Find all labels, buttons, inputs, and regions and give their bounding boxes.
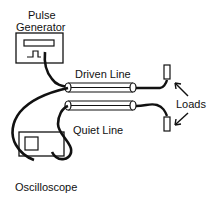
oscilloscope-label: Oscilloscope xyxy=(15,181,77,193)
load-top xyxy=(164,65,170,79)
pulse-generator-label-line1: Pulse xyxy=(28,9,56,21)
loads-label: Loads xyxy=(176,98,206,110)
driven-line xyxy=(65,83,136,92)
generator-cable xyxy=(45,52,68,87)
pulse-waveform-icon xyxy=(27,51,41,57)
scope-cable-1 xyxy=(13,88,68,160)
quiet-load-cable xyxy=(136,104,167,116)
load-bottom xyxy=(164,117,170,131)
pulse-generator-label-line2: Generator xyxy=(16,21,66,33)
display-window-icon xyxy=(24,40,54,46)
oscilloscope xyxy=(19,132,64,156)
pulse-generator xyxy=(16,33,63,63)
quiet-line xyxy=(65,101,136,110)
scope-screen-icon xyxy=(25,137,38,150)
quiet-line-label: Quiet Line xyxy=(73,124,123,136)
driven-load-cable xyxy=(136,80,167,88)
driven-line-label: Driven Line xyxy=(75,68,131,80)
